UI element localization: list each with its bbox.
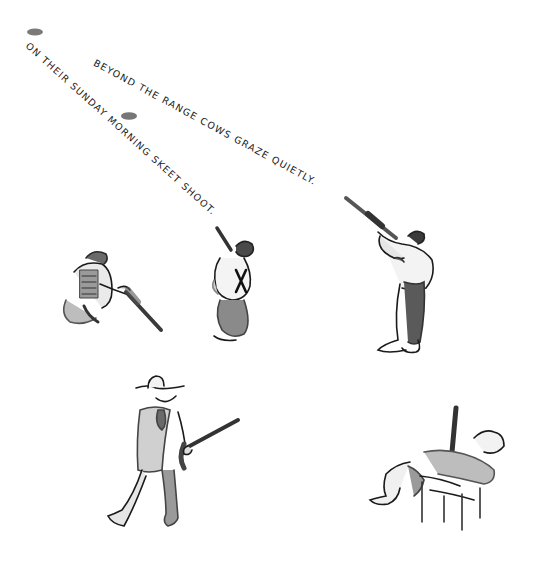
- illustration-canvas: On their Sunday morning skeet shoot. Bey…: [0, 0, 536, 568]
- clay-pigeon-icon: [27, 29, 43, 36]
- suspenders-figure: [213, 228, 254, 341]
- illustration-drawing: [0, 0, 536, 568]
- clay-pigeon-icon: [121, 112, 137, 120]
- reclining-man-figure: [370, 408, 504, 530]
- aiming-shooter-figure: [346, 198, 433, 353]
- cowboy-hat-man-figure: [108, 376, 238, 526]
- crouching-shooter-figure: [64, 252, 161, 330]
